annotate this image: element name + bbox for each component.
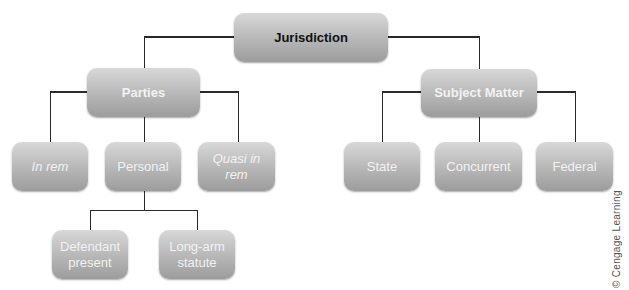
connector-personal-stem xyxy=(144,190,146,210)
node-in-rem: In rem xyxy=(16,146,84,187)
connector-root-to-subject-matter xyxy=(479,36,481,70)
node-long-arm-statute: Long-arm statute xyxy=(163,234,231,275)
node-label: Parties xyxy=(122,85,165,101)
node-state: State xyxy=(348,146,416,187)
connector-personal-to-defendant-present xyxy=(90,210,92,231)
node-label: Long-arm statute xyxy=(167,239,227,270)
node-label: State xyxy=(367,159,397,175)
connector-parties-to-in-rem xyxy=(50,91,52,142)
connector-subject-matter-to-state xyxy=(382,91,384,142)
connector-subject-matter-to-federal xyxy=(575,91,577,142)
node-label: Defendant present xyxy=(60,239,120,270)
copyright-credit: © Cengage Learning xyxy=(611,190,622,288)
node-label: Jurisdiction xyxy=(274,30,348,46)
node-concurrent: Concurrent xyxy=(439,146,518,187)
connector-personal-to-long-arm xyxy=(197,210,199,231)
node-label: Personal xyxy=(117,159,168,175)
node-parties: Parties xyxy=(91,72,196,113)
connector-parties-to-personal xyxy=(144,117,146,142)
node-federal: Federal xyxy=(540,146,609,187)
node-jurisdiction: Jurisdiction xyxy=(238,17,384,58)
node-subject-matter: Subject Matter xyxy=(425,73,533,113)
node-label: Federal xyxy=(552,159,596,175)
node-quasi-in-rem: Quasi in rem xyxy=(202,146,271,187)
connector-personal-horizontal xyxy=(90,210,198,212)
node-label: Quasi in rem xyxy=(209,151,265,182)
connector-parties-to-quasi-in-rem xyxy=(238,91,240,142)
node-label: In rem xyxy=(32,159,69,175)
node-label: Subject Matter xyxy=(434,85,524,101)
connector-root-to-parties xyxy=(144,36,146,68)
node-defendant-present: Defendant present xyxy=(56,234,124,275)
connector-subject-matter-to-concurrent xyxy=(479,116,481,142)
node-personal: Personal xyxy=(109,146,177,187)
node-label: Concurrent xyxy=(446,159,510,175)
